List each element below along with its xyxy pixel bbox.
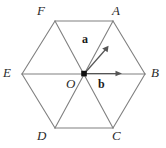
edge-AB <box>113 21 145 74</box>
center-label-O: O <box>66 77 75 90</box>
vertex-label-F: F <box>37 4 45 17</box>
center-point-dot <box>81 71 87 77</box>
vertex-label-B: B <box>151 66 159 79</box>
vector-a-arrow <box>84 46 109 74</box>
hexagon-figure: F A B C D E O a b <box>0 0 166 148</box>
edge-EF <box>22 21 55 74</box>
vertex-label-E: E <box>3 66 11 79</box>
vector-label-b: b <box>98 78 105 90</box>
vector-b-arrow <box>84 71 122 77</box>
vertex-label-A: A <box>112 4 120 17</box>
hexagon-diagram-svg <box>0 0 166 148</box>
vertex-label-D: D <box>37 129 46 142</box>
vector-label-a: a <box>82 33 88 45</box>
edge-BC <box>113 74 145 128</box>
vertex-label-C: C <box>112 129 121 142</box>
edge-DE <box>22 74 55 128</box>
